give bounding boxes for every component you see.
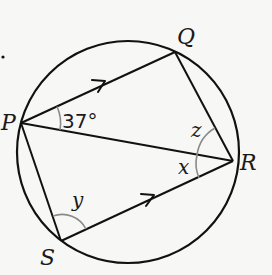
point-label-r: R: [239, 150, 257, 175]
circle-geometry-diagram: P Q R S 37° z x y: [0, 0, 272, 275]
segment-qr: [175, 52, 233, 161]
angle-arc-qpr: [57, 107, 61, 131]
angle-label-prs: x: [178, 155, 189, 179]
angle-label-psr: y: [71, 188, 84, 212]
point-label-p: P: [0, 110, 17, 135]
segment-pq: [21, 52, 175, 123]
point-label-s: S: [40, 245, 55, 270]
segment-ps: [21, 123, 61, 241]
angle-arc-psr: [53, 214, 86, 229]
point-label-q: Q: [177, 24, 195, 49]
angle-arc-prs: [196, 155, 199, 178]
stray-dot: [1, 55, 4, 58]
angle-label-prq: z: [190, 118, 202, 142]
angle-label-qpr: 37°: [62, 109, 97, 133]
